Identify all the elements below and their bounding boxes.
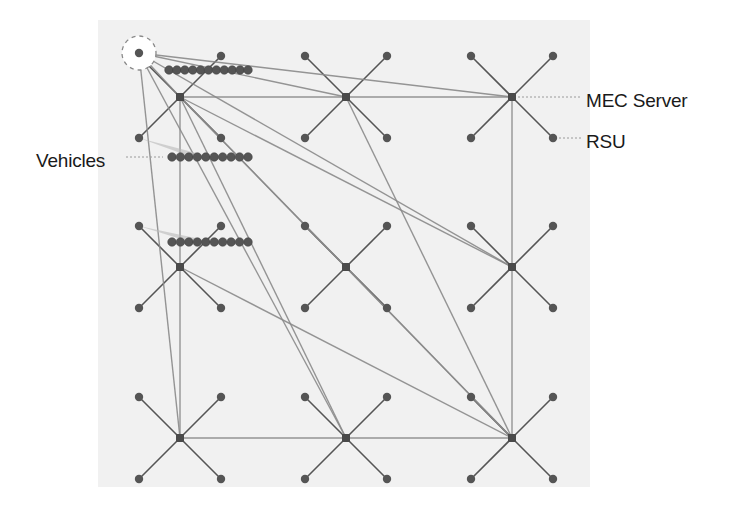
vehicle-node [235, 153, 244, 162]
rsu-link [305, 397, 346, 438]
rsu-node [549, 393, 557, 401]
rsu-link [512, 438, 553, 479]
rsu-node [217, 52, 225, 60]
vehicle-node [204, 66, 213, 75]
mec-server-node [342, 93, 350, 101]
vehicle-node [193, 153, 202, 162]
rsu-link [139, 397, 180, 438]
rsu-node [467, 222, 475, 230]
mec-server-node [508, 93, 516, 101]
server-link [139, 53, 346, 97]
rsu-node [301, 222, 309, 230]
rsu-node [135, 134, 143, 142]
rsu-link [305, 438, 346, 479]
rsu-node [467, 134, 475, 142]
rsu-link [512, 97, 553, 138]
vehicle-node [236, 66, 245, 75]
vehicle-node [196, 66, 205, 75]
rsu-link [346, 97, 387, 138]
vehicle-node [201, 238, 210, 247]
rsu-link [471, 267, 512, 308]
rsu-node [135, 304, 143, 312]
rsu-node [549, 222, 557, 230]
rsu-link [139, 438, 180, 479]
rsu-link [180, 397, 221, 438]
mec-server-node [342, 263, 350, 271]
rsu-node [383, 475, 391, 483]
rsu-node [383, 393, 391, 401]
rsu-node [217, 393, 225, 401]
vehicle-node [227, 238, 236, 247]
rsu-link [471, 97, 512, 138]
vehicle-node [181, 66, 190, 75]
rsu-node [301, 393, 309, 401]
vehicles-label: Vehicles [36, 150, 105, 172]
rsu-node [217, 134, 225, 142]
vehicle-node [235, 238, 244, 247]
rsu-node [135, 393, 143, 401]
rsu-link [305, 97, 346, 138]
vehicle-node [218, 153, 227, 162]
rsu-node [135, 49, 143, 57]
vehicle-node [193, 238, 202, 247]
rsu-node [383, 304, 391, 312]
rsu-link [346, 397, 387, 438]
vehicle-node [227, 153, 236, 162]
vehicle-node [244, 238, 253, 247]
vehicle-node [185, 238, 194, 247]
rsu-link [305, 267, 346, 308]
vehicle-node [176, 153, 185, 162]
rsu-node [383, 222, 391, 230]
mec-server-node [508, 263, 516, 271]
rsu-node [217, 222, 225, 230]
vehicle-node [218, 238, 227, 247]
vehicle-node [212, 66, 221, 75]
rsu-node [217, 304, 225, 312]
rsu-node [217, 475, 225, 483]
rsu-link [512, 397, 553, 438]
rsu-node [301, 304, 309, 312]
rsu-node [135, 222, 143, 230]
vehicle-node [168, 238, 177, 247]
rsu-link [512, 226, 553, 267]
vehicle-node [220, 66, 229, 75]
rsu-link [180, 267, 221, 308]
vehicle-node [176, 238, 185, 247]
mec-server-node [176, 93, 184, 101]
rsu-node [549, 475, 557, 483]
vehicle-node [188, 66, 197, 75]
vehicle-node [201, 153, 210, 162]
rsu-node [301, 475, 309, 483]
mec-server-node [176, 434, 184, 442]
rsu-link [471, 56, 512, 97]
rsu-node [301, 52, 309, 60]
rsu-label: RSU [586, 131, 626, 153]
vehicle-node [210, 153, 219, 162]
rsu-node [549, 304, 557, 312]
server-link [139, 53, 512, 97]
server-link [180, 267, 512, 438]
rsu-link [512, 267, 553, 308]
vehicle-node [244, 153, 253, 162]
rsu-link [180, 438, 221, 479]
rsu-node [549, 52, 557, 60]
rsu-link [139, 267, 180, 308]
topology-canvas [0, 0, 729, 519]
rsu-node [467, 52, 475, 60]
mec-server-node [342, 434, 350, 442]
vehicle-node [165, 66, 174, 75]
rsu-node [549, 134, 557, 142]
rsu-link [346, 226, 387, 267]
vehicle-node [228, 66, 237, 75]
vehicle-node [185, 153, 194, 162]
rsu-link [346, 438, 387, 479]
rsu-link [512, 56, 553, 97]
rsu-link [346, 56, 387, 97]
mec-server-node [176, 263, 184, 271]
network-topology-diagram: MEC Server RSU Vehicles [0, 0, 729, 519]
rsu-node [301, 134, 309, 142]
rsu-node [383, 52, 391, 60]
rsu-node [383, 134, 391, 142]
vehicle-node [244, 66, 253, 75]
server-link [346, 97, 512, 438]
